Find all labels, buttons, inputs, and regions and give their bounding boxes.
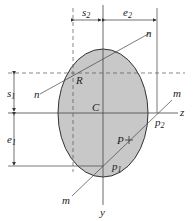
label-R: R	[75, 74, 83, 86]
label-m-top: m	[173, 87, 181, 99]
label-p2: p2	[154, 116, 165, 130]
label-m-bottom: m	[62, 194, 70, 206]
label-e1: e1	[7, 133, 16, 147]
label-s2: s2	[82, 6, 90, 20]
label-y-axis: y	[99, 206, 105, 218]
label-n-bottom: n	[34, 88, 40, 100]
label-z-axis: z	[179, 106, 185, 118]
label-C: C	[92, 101, 100, 113]
cross-section-diagram: s2 e2 s1 e1 n n m m R C P p1 p2 z y	[0, 0, 195, 221]
label-P: P	[116, 134, 124, 146]
label-e2: e2	[123, 6, 132, 20]
label-n-top: n	[146, 27, 152, 39]
